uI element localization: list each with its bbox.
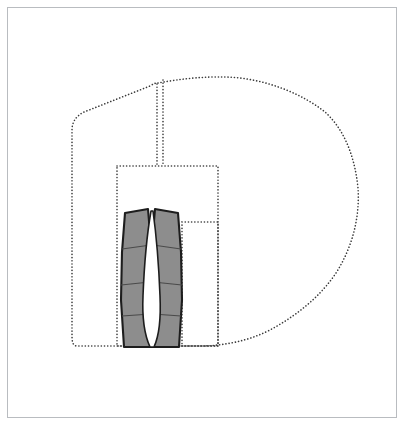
dotted-rectangle-small <box>182 222 218 346</box>
figure-canvas <box>0 0 405 447</box>
figure-drawing <box>0 0 405 447</box>
dotted-boundary-outer <box>72 77 358 346</box>
